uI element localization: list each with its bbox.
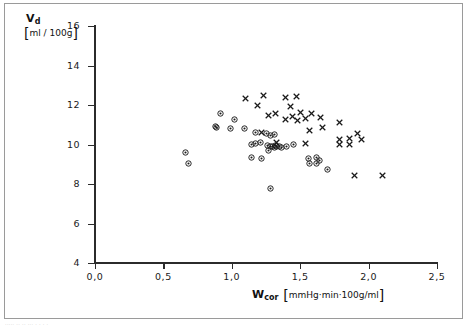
x-axis-tick-label: 1,5 [277,271,323,282]
data-point-circle-dot [324,166,331,173]
y-axis-tick [88,145,94,146]
data-point-circle-dot [227,125,234,132]
data-point-circle-dot [267,185,274,192]
y-axis-tick [88,184,94,185]
data-point-cross [273,139,280,146]
data-point-circle-dot [258,155,265,162]
data-point-circle-dot [212,123,219,130]
data-point-circle-dot [267,132,274,139]
y-axis-tick-label: 6 [58,218,80,229]
x-axis-tick [300,263,301,269]
data-point-cross [282,94,289,101]
data-point-circle-dot [252,129,259,136]
data-point-cross [346,135,353,142]
y-axis-tick-label: 14 [58,60,80,71]
data-point-cross [317,114,324,121]
data-point-circle-dot [248,154,255,161]
caption-fragment: ····· ·· ·· ··· · · · · [5,322,305,326]
data-point-cross [336,141,343,148]
data-point-circle-dot [267,143,274,150]
x-axis-units-text: mmHg·min·100g/ml [289,290,379,300]
data-point-circle-dot [273,143,280,150]
x-axis-tick [232,263,233,269]
data-point-cross [260,92,267,99]
y-axis-tick-label: 10 [58,139,80,150]
x-axis-tick [163,263,164,269]
data-point-circle-dot [313,154,320,161]
data-point-cross [351,172,358,179]
data-point-circle-dot [278,144,285,151]
data-point-cross [254,102,261,109]
y-axis-tick [88,66,94,67]
x-axis-title: Wcor[mmHg·min·100g/ml] [252,288,384,302]
data-point-cross [242,95,249,102]
data-point-cross [306,127,313,134]
data-point-circle-dot [313,160,320,167]
data-point-circle-dot [252,140,259,147]
data-point-circle-dot [263,130,270,137]
data-point-circle-dot [271,144,278,151]
x-axis-tick-label: 2,5 [414,271,460,282]
figure-container: Vd [ml / 100g] 468101214160,00,51,01,52,… [0,0,468,330]
y-axis-tick-label: 12 [58,99,80,110]
data-point-cross [289,113,296,120]
data-point-circle-dot [269,143,276,150]
y-axis-tick [88,224,94,225]
x-axis-line [94,262,438,264]
data-point-cross [294,117,301,124]
y-axis-title: Vd [26,12,41,26]
data-point-circle-dot [257,139,264,146]
data-point-cross [265,112,272,119]
data-point-circle-dot [248,141,255,148]
y-axis-tick [88,26,94,27]
x-axis-units: [mmHg·min·100g/ml] [283,290,384,300]
y-axis-tick-label: 16 [58,20,80,31]
data-point-cross [302,140,309,147]
data-point-cross [308,110,315,117]
data-point-circle-dot [271,131,278,138]
data-point-circle-dot [213,124,220,131]
bracket-close-icon: ] [379,290,384,300]
data-point-circle-dot [264,142,271,149]
data-point-circle-dot [185,160,192,167]
y-axis-subscript: d [35,17,41,26]
data-point-cross [336,136,343,143]
data-point-cross [272,110,279,117]
data-point-circle-dot [305,155,312,162]
x-axis-subscript: cor [264,293,278,302]
data-point-circle-dot [241,125,248,132]
data-point-cross [258,129,265,136]
data-point-circle-dot [217,110,224,117]
data-point-cross [346,141,353,148]
x-axis-tick-label: 2,0 [346,271,392,282]
data-point-cross [379,172,386,179]
y-axis-tick [88,105,94,106]
data-point-cross [302,115,309,122]
x-axis-tick-label: 1,0 [209,271,255,282]
y-axis-tick-label: 8 [58,178,80,189]
y-axis-line [94,25,96,264]
data-point-circle-dot [316,157,323,164]
data-point-cross [287,103,294,110]
data-point-circle-dot [283,143,290,150]
x-axis-tick-label: 0,5 [140,271,186,282]
y-axis-tick-label: 4 [58,257,80,268]
data-point-cross [336,119,343,126]
data-point-cross [297,109,304,116]
data-point-circle-dot [306,160,313,167]
y-axis-tick [88,263,94,264]
data-point-circle-dot [290,141,297,148]
data-point-circle-dot [272,142,279,149]
data-point-cross [358,136,365,143]
data-point-cross [354,130,361,137]
x-axis-tick [369,263,370,269]
data-point-circle-dot [265,147,272,154]
x-axis-tick-label: 0,0 [72,271,118,282]
data-point-cross [282,116,289,123]
data-point-circle-dot [276,143,283,150]
data-point-circle-dot [182,149,189,156]
data-point-cross [319,124,326,131]
data-point-circle-dot [231,116,238,123]
x-axis-tick [95,263,96,269]
data-point-cross [293,93,300,100]
